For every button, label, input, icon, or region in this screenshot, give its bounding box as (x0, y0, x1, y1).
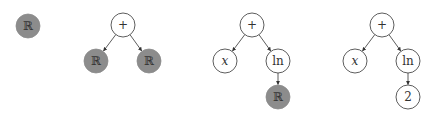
edge-arrow (389, 35, 401, 51)
edge-arrow (259, 35, 271, 51)
tree-2: +ℝℝ (84, 13, 161, 73)
node-label: 2 (404, 90, 412, 104)
node-label: ℝ (23, 19, 34, 33)
node: + (111, 13, 135, 37)
node: 2 (396, 85, 420, 109)
tree-3: +xlnℝ (213, 13, 290, 109)
edge-arrow (233, 35, 245, 51)
node: x (213, 49, 237, 73)
filled-node: ℝ (266, 85, 290, 109)
tree-4: +xln2 (343, 13, 420, 109)
node-label: ℝ (144, 54, 155, 68)
node-label: ln (402, 54, 414, 68)
edge-arrow (130, 35, 142, 51)
edge-arrow (363, 35, 375, 51)
node: + (370, 13, 394, 37)
node-label: + (247, 18, 257, 32)
node-label: + (377, 18, 387, 32)
filled-node: ℝ (137, 49, 161, 73)
expression-trees-diagram: ℝ+ℝℝ+xlnℝ+xln2 (0, 0, 441, 125)
node: + (240, 13, 264, 37)
node-label: x (352, 54, 359, 68)
node-label: ℝ (273, 90, 284, 104)
node: ln (396, 49, 420, 73)
node: ln (266, 49, 290, 73)
filled-node: ℝ (16, 14, 40, 38)
node-label: ℝ (91, 54, 102, 68)
node-label: ln (272, 54, 284, 68)
edge-arrow (104, 35, 116, 51)
node-label: x (222, 54, 229, 68)
tree-1: ℝ (16, 14, 40, 38)
node: x (343, 49, 367, 73)
filled-node: ℝ (84, 49, 108, 73)
node-label: + (118, 18, 128, 32)
nodes-layer: ℝ+ℝℝ+xlnℝ+xln2 (16, 13, 420, 109)
